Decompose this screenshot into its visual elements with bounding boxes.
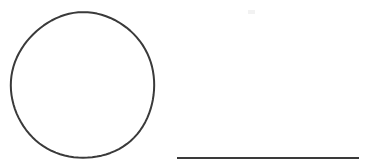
faint-artifact-mark	[248, 10, 255, 14]
drawing-canvas[interactable]: Freehand sketch: circle and horizontal l…	[0, 0, 378, 167]
sketch-surface[interactable]	[0, 0, 378, 167]
canvas-background	[0, 0, 378, 167]
